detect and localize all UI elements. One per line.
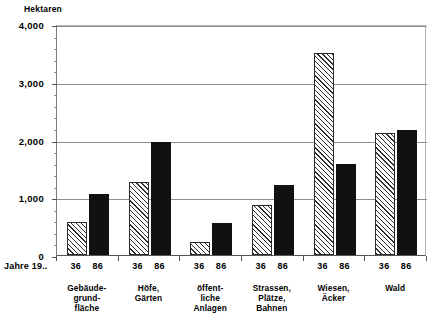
bar-36-1	[129, 182, 149, 255]
y-axis-minor-tick	[54, 165, 57, 166]
y-axis-unit-label: Hektaren	[24, 4, 62, 14]
y-axis-minor-tick	[54, 222, 57, 223]
y-axis-minor-tick	[54, 107, 57, 108]
y-axis-tick	[52, 84, 57, 85]
y-axis-minor-tick	[54, 176, 57, 177]
y-axis-minor-tick	[54, 38, 57, 39]
y-axis-minor-tick	[54, 211, 57, 212]
chart-canvas: Hektaren 01,0002,0003,0004,0003686Gebäud…	[0, 0, 442, 330]
x-axis-group-separator	[303, 256, 304, 261]
x-axis-year-label: 86	[205, 261, 237, 271]
y-axis-minor-tick	[54, 245, 57, 246]
y-axis-label: 2,000	[0, 135, 44, 146]
y-axis-minor-tick	[54, 95, 57, 96]
bar-86-2	[212, 223, 232, 255]
gridline	[57, 26, 427, 27]
y-axis-tick	[52, 142, 57, 143]
gridline	[57, 199, 427, 200]
y-axis-label: 3,000	[0, 77, 44, 88]
x-axis-end-tick	[426, 256, 427, 261]
x-axis-group-separator	[118, 256, 119, 261]
y-axis-label: 0	[0, 251, 44, 262]
y-axis-minor-tick	[54, 188, 57, 189]
bar-86-4	[336, 164, 356, 255]
y-axis-tick	[52, 26, 57, 27]
bar-36-2	[190, 242, 210, 255]
y-axis-minor-tick	[54, 72, 57, 73]
x-axis-year-label: 86	[144, 261, 176, 271]
y-axis-minor-tick	[54, 234, 57, 235]
y-axis-minor-tick	[54, 49, 57, 50]
gridline	[57, 84, 427, 85]
bar-36-5	[375, 133, 395, 255]
x-axis-title: Jahre 19..	[4, 261, 48, 271]
x-axis-group-separator	[179, 256, 180, 261]
plot-area	[56, 25, 426, 256]
gridline	[57, 142, 427, 143]
x-axis-year-label: 86	[390, 261, 422, 271]
x-axis-group-separator	[241, 256, 242, 261]
bar-36-3	[252, 205, 272, 255]
y-axis-label: 1,000	[0, 193, 44, 204]
y-axis-label: 4,000	[0, 20, 44, 31]
x-axis-end-tick	[56, 256, 57, 261]
bar-36-4	[314, 53, 334, 255]
bar-86-3	[274, 185, 294, 255]
x-axis-group-separator	[364, 256, 365, 261]
bar-86-0	[89, 194, 109, 255]
y-axis-minor-tick	[54, 153, 57, 154]
x-axis-category-label: Wald	[358, 283, 432, 293]
bar-86-5	[397, 130, 417, 255]
y-axis-minor-tick	[54, 130, 57, 131]
y-axis-minor-tick	[54, 61, 57, 62]
bar-36-0	[67, 222, 87, 255]
x-axis-year-label: 86	[82, 261, 114, 271]
bar-86-1	[151, 142, 171, 255]
x-axis-year-label: 86	[329, 261, 361, 271]
x-axis-year-label: 86	[267, 261, 299, 271]
y-axis-minor-tick	[54, 118, 57, 119]
y-axis-tick	[52, 199, 57, 200]
